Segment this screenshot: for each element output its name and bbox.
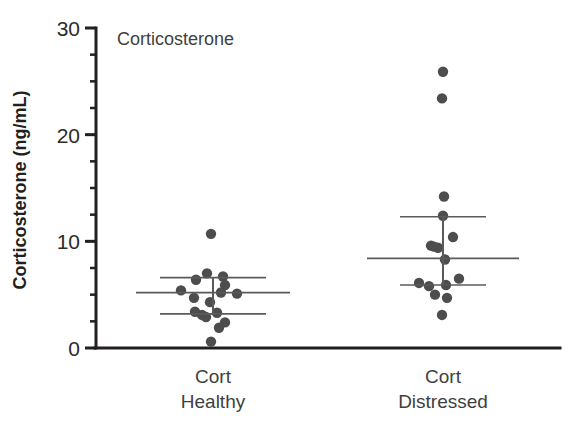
plot-background bbox=[0, 0, 585, 425]
x-axis-label-line1: Cort bbox=[195, 366, 232, 387]
y-tick-label: 0 bbox=[68, 337, 80, 360]
data-point bbox=[454, 273, 464, 283]
data-point bbox=[437, 93, 447, 103]
data-point bbox=[430, 289, 440, 299]
x-axis-label-line2: Healthy bbox=[181, 391, 246, 412]
y-axis-label: Corticosterone (ng/mL) bbox=[10, 90, 30, 289]
chart-panel: Corticosterone (ng/mL) Corticosterone 01… bbox=[0, 0, 585, 425]
data-point bbox=[438, 67, 448, 77]
x-axis-label-line1: Cort bbox=[425, 366, 462, 387]
y-tick-label: 20 bbox=[57, 124, 80, 147]
y-tick-label: 30 bbox=[57, 17, 80, 40]
panel-title: Corticosterone bbox=[117, 29, 234, 49]
data-point bbox=[214, 323, 224, 333]
data-point bbox=[206, 336, 216, 346]
data-point bbox=[206, 229, 216, 239]
scatter-plot-svg: Corticosterone (ng/mL) Corticosterone 01… bbox=[0, 0, 585, 425]
data-point bbox=[440, 254, 450, 264]
data-point bbox=[442, 293, 452, 303]
data-point bbox=[429, 241, 439, 251]
data-point bbox=[439, 191, 449, 201]
data-point bbox=[448, 232, 458, 242]
x-axis-label-line2: Distressed bbox=[398, 391, 488, 412]
data-point bbox=[176, 285, 186, 295]
data-point bbox=[437, 310, 447, 320]
data-point bbox=[414, 278, 424, 288]
data-point bbox=[232, 288, 242, 298]
data-point bbox=[189, 293, 199, 303]
y-tick-label: 10 bbox=[57, 230, 80, 253]
data-point bbox=[424, 281, 434, 291]
data-point bbox=[191, 275, 201, 285]
